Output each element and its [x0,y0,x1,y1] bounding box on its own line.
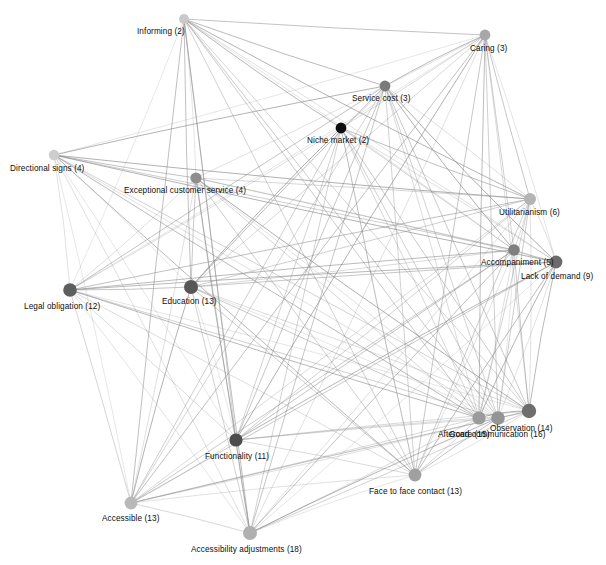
graph-edge [70,262,556,290]
graph-edge [70,290,415,475]
graph-node-good_communication[interactable] [491,411,505,425]
graph-node-education[interactable] [184,280,198,294]
graph-edge [415,418,498,475]
graph-edge [250,128,341,533]
graph-edge [131,440,236,503]
graph-edge [191,287,479,418]
graph-edge [250,35,485,533]
graph-edge [514,199,530,250]
graph-edge [131,178,196,503]
graph-edge [196,178,514,250]
network-graph-canvas: Informing (2)Caring (3)Service cost (3)N… [0,0,606,565]
graph-node-service_cost[interactable] [380,81,391,92]
graph-edge [191,178,196,287]
graph-node-aftercare[interactable] [472,411,485,424]
graph-node-caring[interactable] [480,30,491,41]
graph-edge [54,155,514,250]
graph-edge [485,35,498,418]
graph-edge [184,19,191,287]
graph-edge [184,19,485,35]
graph-node-accessible[interactable] [125,497,138,510]
graph-edge [415,262,556,475]
graph-edge [485,35,530,199]
graph-node-legal_obligation[interactable] [63,283,77,297]
graph-edge [184,19,196,178]
graph-edge [70,290,131,503]
graph-node-directional_signs[interactable] [49,150,59,160]
graph-edge [250,250,514,533]
graph-edge [70,250,514,290]
graph-edge [250,262,556,533]
graph-node-observation[interactable] [522,404,536,418]
graph-edge [250,411,529,533]
graph-node-exceptional_customer_service[interactable] [190,172,201,183]
graph-edge [70,19,184,290]
graph-edge [184,19,341,128]
graph-edge [191,287,415,475]
graph-edge [184,19,514,250]
graph-edge [529,199,531,411]
graph-edge [236,35,485,440]
graph-edge [70,178,196,290]
graph-edge [529,262,556,411]
graph-edge [341,128,415,475]
graph-edge [191,287,250,533]
graph-edge [514,250,529,411]
graph-edge [54,155,236,440]
graph-node-accessibility_adjustments[interactable] [243,526,257,540]
graph-node-utilitarianism[interactable] [524,193,536,205]
graph-node-accompaniment[interactable] [508,244,520,256]
graph-edge [415,411,529,475]
graph-node-face_to_face_contact[interactable] [409,469,422,482]
graph-edge [191,287,498,418]
graph-edge [54,155,191,287]
edge-layer [54,19,556,533]
network-graph-svg [0,0,606,565]
graph-node-informing[interactable] [179,14,189,24]
graph-edge [236,128,341,440]
graph-edge [236,440,415,475]
graph-node-niche_market[interactable] [336,123,347,134]
graph-edge [191,287,236,440]
graph-node-lack_of_demand[interactable] [550,256,563,269]
graph-edge [196,178,556,262]
graph-edge [184,19,556,262]
graph-edge [498,250,514,418]
graph-edge [131,128,341,503]
graph-node-functionality[interactable] [229,433,242,446]
graph-edge [530,199,556,262]
graph-edge [54,155,131,503]
graph-edge [184,19,529,411]
